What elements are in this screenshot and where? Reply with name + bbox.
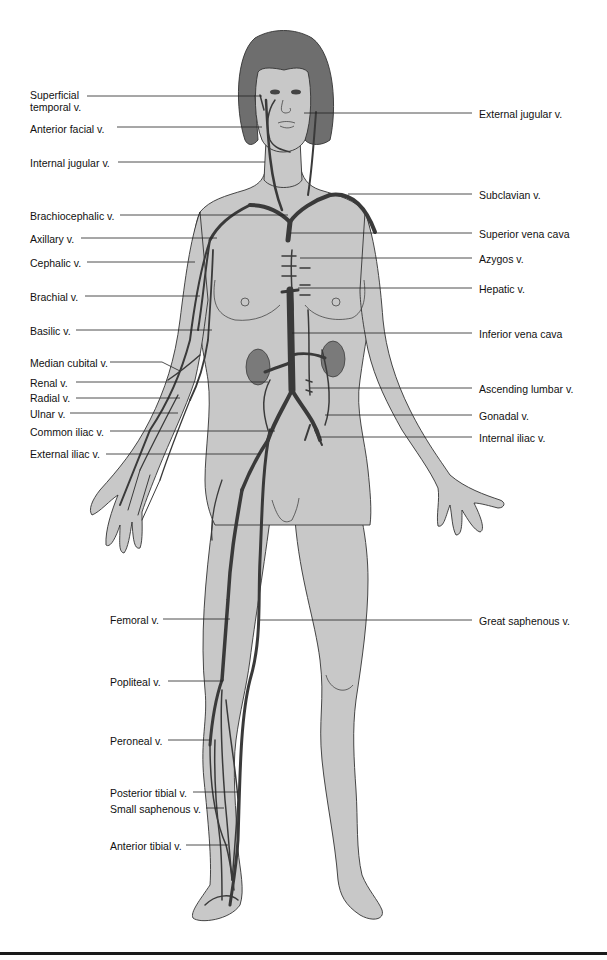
label-small-saphenous: Small saphenous v.	[110, 803, 201, 815]
head	[238, 31, 333, 153]
label-superior-vena-cava: Superior vena cava	[479, 228, 569, 240]
vein-hepatic	[282, 290, 298, 292]
venous-system-figure	[0, 0, 607, 960]
torso	[193, 165, 372, 525]
left-kidney	[246, 349, 270, 385]
label-internal-jugular: Internal jugular v.	[30, 157, 110, 169]
label-popliteal: Popliteal v.	[110, 676, 161, 688]
label-cephalic: Cephalic v.	[30, 257, 81, 269]
vein-superior-vena-cava	[288, 222, 290, 240]
left-arm	[90, 212, 208, 553]
label-renal: Renal v.	[30, 377, 68, 389]
label-ascending-lumbar: Ascending lumbar v.	[479, 383, 573, 395]
right-leg	[295, 520, 382, 919]
bottom-rule-divider	[0, 952, 607, 955]
label-ulnar: Ulnar v.	[30, 408, 65, 420]
label-axillary: Axillary v.	[30, 233, 74, 245]
label-anterior-tibial: Anterior tibial v.	[110, 840, 182, 852]
label-external-jugular: External jugular v.	[479, 108, 562, 120]
label-subclavian: Subclavian v.	[479, 189, 541, 201]
label-external-iliac: External iliac v.	[30, 448, 100, 460]
vein-inferior-vena-cava	[290, 290, 292, 390]
label-peroneal: Peroneal v.	[110, 735, 162, 747]
label-azygos: Azygos v.	[479, 253, 524, 265]
label-median-cubital: Median cubital v.	[30, 357, 108, 369]
label-superficial-temporal: Superficialtemporal v.	[30, 89, 81, 113]
label-internal-iliac: Internal iliac v.	[479, 432, 545, 444]
label-hepatic: Hepatic v.	[479, 283, 525, 295]
right-eye	[291, 90, 301, 95]
label-inferior-vena-cava: Inferior vena cava	[479, 328, 562, 340]
label-basilic: Basilic v.	[30, 325, 71, 337]
label-brachial: Brachial v.	[30, 291, 78, 303]
label-posterior-tibial: Posterior tibial v.	[110, 787, 187, 799]
left-eye	[270, 90, 280, 95]
label-radial: Radial v.	[30, 392, 70, 404]
label-brachiocephalic: Brachiocephalic v.	[30, 210, 114, 222]
label-common-iliac: Common iliac v.	[30, 426, 104, 438]
label-great-saphenous: Great saphenous v.	[479, 615, 570, 627]
label-gonadal: Gonadal v.	[479, 410, 529, 422]
label-femoral: Femoral v.	[110, 614, 159, 626]
label-anterior-facial: Anterior facial v.	[30, 123, 105, 135]
